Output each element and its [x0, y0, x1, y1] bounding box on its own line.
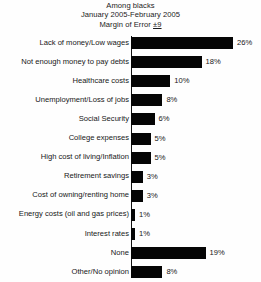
category-label: Social Security	[79, 114, 129, 123]
category-label: Unemployment/Loss of jobs	[35, 95, 129, 104]
bar	[131, 56, 202, 68]
margin-of-error-value: ±9	[153, 20, 162, 29]
category-label: College expenses	[69, 133, 129, 142]
bar-fill	[131, 152, 151, 164]
category-label: Lack of money/Low wages	[40, 38, 130, 47]
bar-row: Unemployment/Loss of jobs8%	[0, 93, 261, 112]
bar-fill	[131, 228, 135, 240]
bar-fill	[131, 133, 151, 145]
category-label: None	[111, 248, 129, 257]
chart-title-block: Among blacks January 2005-February 2005 …	[0, 1, 261, 29]
bar-value-label: 1%	[139, 229, 150, 238]
category-label: Not enough money to pay debts	[21, 57, 129, 66]
category-label: Cost of owning/renting home	[32, 190, 129, 199]
chart-title: Among blacks	[0, 1, 261, 10]
bar	[131, 228, 135, 240]
bar-row: Other/No opinion8%	[0, 265, 261, 282]
bar-value-label: 1%	[139, 210, 150, 219]
bar-fill	[131, 171, 143, 183]
bar-fill	[131, 56, 202, 68]
bar-fill	[131, 113, 155, 125]
bar-fill	[131, 209, 135, 221]
chart-subtitle: January 2005-February 2005	[0, 10, 261, 19]
category-label: Energy costs (oil and gas prices)	[19, 209, 129, 218]
category-label: High cost of living/Inflation	[41, 152, 129, 161]
bar	[131, 209, 135, 221]
category-label: Healthcare costs	[72, 76, 129, 85]
bar	[131, 266, 162, 278]
bar-row: None19%	[0, 246, 261, 265]
bar	[131, 94, 162, 106]
margin-of-error-label: Margin of Error	[99, 20, 153, 29]
plot-area: Lack of money/Low wages26%Not enough mon…	[0, 36, 261, 268]
bar	[131, 133, 151, 145]
bar-fill	[131, 37, 233, 49]
bar-row: Lack of money/Low wages26%	[0, 36, 261, 55]
bar-value-label: 3%	[147, 172, 158, 181]
bar-row: Social Security6%	[0, 112, 261, 131]
bar	[131, 113, 155, 125]
category-label: Other/No opinion	[72, 267, 129, 276]
category-label: Interest rates	[85, 229, 129, 238]
bar-value-label: 18%	[206, 57, 221, 66]
bar-row: Retirement savings3%	[0, 170, 261, 189]
bar-row: Energy costs (oil and gas prices)1%	[0, 208, 261, 227]
bar-value-label: 6%	[159, 114, 170, 123]
bar-row: College expenses5%	[0, 132, 261, 151]
bar-row: Cost of owning/renting home3%	[0, 189, 261, 208]
bar	[131, 247, 206, 259]
bar-value-label: 10%	[174, 76, 189, 85]
bar-fill	[131, 75, 170, 87]
bar-value-label: 8%	[166, 267, 177, 276]
bar-fill	[131, 190, 143, 202]
bar-fill	[131, 94, 162, 106]
bar-row: Healthcare costs10%	[0, 74, 261, 93]
bar-row: Interest rates1%	[0, 227, 261, 246]
margin-of-error: Margin of Error ±9	[0, 20, 261, 29]
bar-row: Not enough money to pay debts18%	[0, 55, 261, 74]
bar-row: High cost of living/Inflation5%	[0, 151, 261, 170]
bar	[131, 190, 143, 202]
bar-fill	[131, 247, 206, 259]
bar-value-label: 26%	[237, 38, 252, 47]
bar-value-label: 5%	[155, 134, 166, 143]
bar	[131, 37, 233, 49]
bar-value-label: 19%	[210, 248, 225, 257]
bar	[131, 171, 143, 183]
bar-value-label: 3%	[147, 191, 158, 200]
bar	[131, 75, 170, 87]
bar-value-label: 8%	[166, 95, 177, 104]
bar-value-label: 5%	[155, 153, 166, 162]
category-label: Retirement savings	[64, 171, 129, 180]
bar	[131, 152, 151, 164]
bar-fill	[131, 266, 162, 278]
